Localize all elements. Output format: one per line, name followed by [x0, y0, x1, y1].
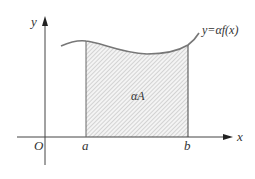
x-axis-arrow-icon — [223, 134, 233, 140]
bound-b-label: b — [184, 138, 191, 153]
x-axis-label: x — [236, 129, 243, 144]
area-under-curve-diagram: y x O a b αA y=αf(x) — [0, 0, 255, 179]
origin-label: O — [34, 138, 44, 153]
curve-label: y=αf(x) — [201, 23, 238, 37]
bound-a-label: a — [82, 138, 89, 153]
y-axis-label: y — [29, 14, 37, 29]
region-label: αA — [131, 89, 145, 103]
y-axis-arrow-icon — [42, 16, 48, 26]
